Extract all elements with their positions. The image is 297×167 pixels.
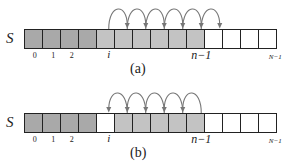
panel-a: S (a) 012in−1N−1 [0, 0, 297, 83]
index-label: 2 [70, 51, 74, 60]
index-label: i [107, 48, 110, 60]
shift-arc [183, 9, 202, 29]
caption: (b) [130, 145, 146, 161]
index-label: n−1 [191, 48, 211, 63]
index-label: 0 [33, 51, 37, 60]
arrowhead-icon [180, 107, 185, 113]
arrowhead-icon [125, 107, 130, 113]
index-label: 2 [70, 135, 74, 144]
shift-arc [183, 93, 202, 113]
shift-arc [164, 9, 183, 29]
shift-arc [146, 9, 165, 29]
panel-b: S (b) 012in−1N−1 [0, 84, 297, 167]
shift-arc [127, 9, 146, 29]
arrowhead-icon [217, 23, 222, 29]
arrowhead-icon [106, 107, 111, 113]
arrowhead-icon [162, 107, 167, 113]
shift-arc [127, 93, 146, 113]
shift-arc [164, 93, 183, 113]
shift-arc [201, 9, 220, 29]
shift-arc [146, 93, 165, 113]
index-label: 1 [51, 51, 55, 60]
shift-arc [109, 9, 128, 29]
shift-arrows [0, 84, 297, 167]
index-label: i [107, 132, 110, 144]
index-label: 0 [33, 135, 37, 144]
shift-arrows [0, 0, 297, 83]
arrowhead-icon [143, 107, 148, 113]
shift-arc [109, 93, 128, 113]
index-label: n−1 [191, 132, 211, 147]
index-label: N−1 [269, 137, 282, 145]
caption: (a) [130, 61, 146, 77]
index-label: N−1 [269, 53, 282, 61]
index-label: 1 [51, 135, 55, 144]
